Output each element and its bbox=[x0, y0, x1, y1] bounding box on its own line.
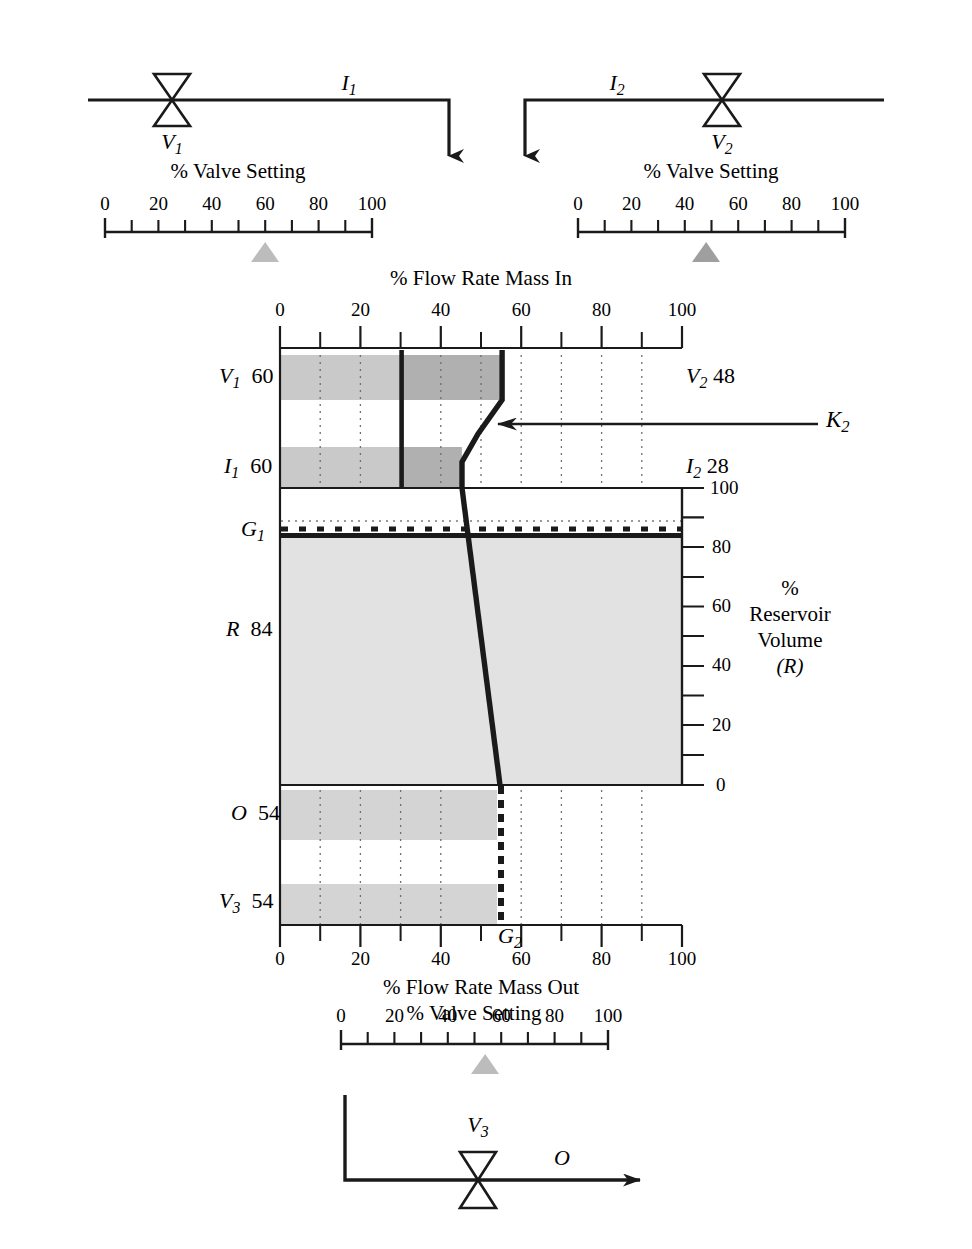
valve-v3-label: V3 bbox=[467, 1114, 488, 1140]
outlet-flow-label: O bbox=[554, 1147, 570, 1169]
rtick-40: 40 bbox=[712, 655, 731, 674]
chart-top-axis bbox=[280, 326, 682, 348]
chart-top-title: % Flow Rate Mass In bbox=[390, 268, 572, 289]
xtick-bot-100: 100 bbox=[668, 949, 697, 968]
bar-v3 bbox=[281, 884, 497, 925]
valve1-tick-80: 80 bbox=[309, 194, 328, 213]
xtick-top-20: 20 bbox=[351, 300, 370, 319]
xtick-bot-0: 0 bbox=[275, 949, 285, 968]
valve-v1-label: V1 bbox=[161, 131, 182, 157]
valve2-tick-40: 40 bbox=[675, 194, 694, 213]
valve-v2-label: V2 bbox=[711, 131, 732, 157]
reservoir-label: R 84 bbox=[226, 618, 272, 640]
inlet2-pipe bbox=[525, 100, 884, 156]
valve1-tick-0: 0 bbox=[100, 194, 110, 213]
rtick-20: 20 bbox=[712, 715, 731, 734]
valve3-scale[interactable] bbox=[341, 1030, 608, 1074]
valve1-scale-caption: % Valve Setting bbox=[171, 161, 306, 182]
valve2-tick-100: 100 bbox=[831, 194, 860, 213]
right-axis-line-4: (R) bbox=[777, 656, 804, 677]
xtick-top-100: 100 bbox=[668, 300, 697, 319]
inlet1-flow-label: I1 bbox=[341, 72, 356, 98]
right-axis-line-3: Volume bbox=[758, 630, 823, 651]
xtick-top-0: 0 bbox=[275, 300, 285, 319]
xtick-bot-20: 20 bbox=[351, 949, 370, 968]
xtick-bot-40: 40 bbox=[431, 949, 450, 968]
xtick-top-60: 60 bbox=[512, 300, 531, 319]
valve2-tick-20: 20 bbox=[622, 194, 641, 213]
valve1-tick-60: 60 bbox=[256, 194, 275, 213]
inlet2-flow-label: I2 bbox=[609, 72, 624, 98]
valve3-tick-60: 60 bbox=[492, 1006, 511, 1025]
outlet-pipe bbox=[345, 1095, 640, 1208]
bar-v1-light bbox=[281, 355, 402, 400]
valve2-scale-caption: % Valve Setting bbox=[644, 161, 779, 182]
valve1-tick-40: 40 bbox=[202, 194, 221, 213]
valve3-tick-40: 40 bbox=[438, 1006, 457, 1025]
bottom-bars-group bbox=[280, 785, 642, 925]
valve2-tick-80: 80 bbox=[782, 194, 801, 213]
row-label-o: O 54 bbox=[231, 802, 280, 824]
xtick-top-80: 80 bbox=[592, 300, 611, 319]
rtick-60: 60 bbox=[712, 596, 731, 615]
rtick-0: 0 bbox=[716, 775, 726, 794]
inlet1-pipe bbox=[88, 100, 449, 156]
valve2-slider-marker[interactable] bbox=[692, 242, 720, 262]
chart-bottom-axis bbox=[280, 925, 682, 947]
valve3-scale-caption: % Valve Setting bbox=[407, 1003, 542, 1024]
xtick-bot-80: 80 bbox=[592, 949, 611, 968]
bar-i1-dark bbox=[402, 447, 462, 488]
bar-o bbox=[281, 790, 497, 840]
valve3-tick-0: 0 bbox=[336, 1006, 346, 1025]
valve2-tick-0: 0 bbox=[573, 194, 583, 213]
valve3-slider-marker[interactable] bbox=[471, 1054, 499, 1074]
valve1-slider-marker[interactable] bbox=[251, 242, 279, 262]
chart-bottom-title: % Flow Rate Mass Out bbox=[383, 977, 579, 998]
valve3-tick-20: 20 bbox=[385, 1006, 404, 1025]
row-label-v1: V1 60 bbox=[219, 365, 273, 391]
g1-label: G1 bbox=[241, 518, 265, 544]
top-pipe-network bbox=[88, 74, 884, 156]
valve2-scale[interactable] bbox=[578, 218, 845, 262]
reservoir-fill bbox=[281, 536, 681, 786]
xtick-bot-60: 60 bbox=[512, 949, 531, 968]
figure-root: V1 I1 % Valve Setting V2 I2 % Valve Sett… bbox=[0, 0, 972, 1249]
row-label-v3: V3 54 bbox=[219, 890, 273, 916]
valve2-tick-60: 60 bbox=[729, 194, 748, 213]
reservoir-axis bbox=[682, 488, 704, 785]
row-label-i1: I1 60 bbox=[224, 455, 272, 481]
rtick-80: 80 bbox=[712, 537, 731, 556]
valve1-tick-100: 100 bbox=[358, 194, 387, 213]
bar-i1-light bbox=[281, 447, 402, 488]
right-axis-line-2: Reservoir bbox=[749, 604, 831, 625]
rtick-100: 100 bbox=[710, 478, 739, 497]
xtick-top-40: 40 bbox=[431, 300, 450, 319]
bar-v1-dark bbox=[402, 355, 503, 400]
valve1-scale[interactable] bbox=[105, 218, 372, 262]
valve3-tick-100: 100 bbox=[594, 1006, 623, 1025]
right-axis-line-1: % bbox=[781, 578, 799, 599]
row-label-v2: V2 48 bbox=[686, 365, 735, 391]
valve3-tick-80: 80 bbox=[545, 1006, 564, 1025]
annotation-k2: K2 bbox=[826, 408, 850, 436]
valve1-tick-20: 20 bbox=[149, 194, 168, 213]
